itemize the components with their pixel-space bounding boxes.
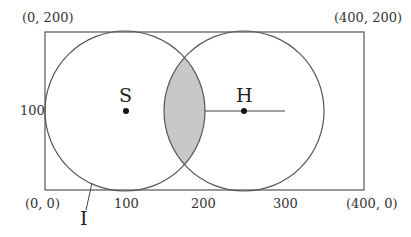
pointer-label-i: I [80, 207, 88, 229]
point-s [123, 108, 129, 114]
x-axis-label-200: 200 [191, 196, 216, 211]
corner-label-top-left: (0, 200) [22, 10, 74, 25]
point-h [241, 108, 247, 114]
x-axis-label-300: 300 [273, 196, 298, 211]
corner-label-bottom-right: (400, 0) [346, 196, 398, 211]
pointer-line [86, 183, 92, 210]
point-label-h: H [236, 84, 253, 106]
x-axis-label-100: 100 [114, 196, 139, 211]
point-label-s: S [119, 84, 132, 106]
y-axis-label-100: 100 [20, 103, 45, 118]
corner-label-top-right: (400, 200) [334, 10, 402, 25]
corner-label-bottom-left: (0, 0) [25, 196, 60, 211]
